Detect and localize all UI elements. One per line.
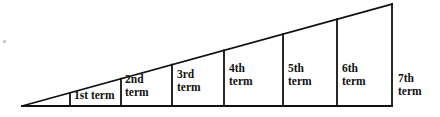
scan-artifact-speck	[3, 40, 6, 43]
segment-label-2nd-term: 2nd term	[125, 73, 149, 99]
segment-label-1st-term: 1st term	[74, 89, 115, 102]
segment-label-3rd-term: 3rd term	[177, 68, 201, 94]
triangle-diagram-svg	[0, 0, 440, 117]
segment-label-4th-term: 4th term	[229, 62, 253, 88]
segment-label-6th-term: 6th term	[342, 62, 366, 88]
segment-label-5th-term: 5th term	[288, 62, 312, 88]
segment-label-7th-term: 7th term	[398, 72, 422, 98]
term-triangle-figure: 1st term 2nd term 3rd term 4th term 5th …	[0, 0, 440, 117]
